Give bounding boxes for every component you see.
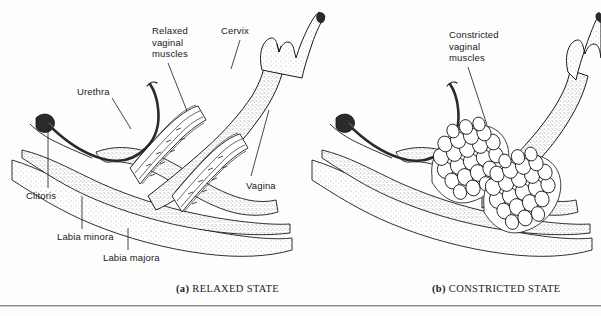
clitoris-shape-a	[36, 114, 54, 132]
leader-cervix	[231, 40, 240, 69]
label-relaxed-vaginal-muscles: Relaxed vaginal muscles	[152, 25, 188, 60]
caption-a-tag: (a)	[176, 283, 189, 294]
caption-constricted-state: (b) CONSTRICTED STATE	[432, 283, 560, 294]
label-cervix: Cervix	[221, 25, 249, 37]
label-constricted-vaginal-muscles: Constricted vaginal muscles	[449, 29, 499, 64]
cervix-shape-a	[261, 12, 326, 78]
cervix-shape-b	[567, 14, 601, 80]
label-labia-minora: Labia minora	[57, 231, 114, 243]
leader-urethra	[112, 98, 131, 129]
label-labia-majora: Labia majora	[103, 252, 160, 264]
figure-divider-shadow	[0, 306, 601, 307]
caption-b-tag: (b)	[432, 283, 446, 294]
caption-b-text: CONSTRICTED STATE	[446, 283, 561, 294]
label-clitoris: Clitoris	[26, 190, 56, 202]
figure-artwork	[0, 0, 601, 316]
anatomical-figure: Urethra Relaxed vaginal muscles Cervix V…	[0, 0, 601, 316]
leader-constricted-muscles	[468, 67, 487, 125]
leader-lines-b	[468, 67, 487, 125]
caption-a-text: RELAXED STATE	[189, 283, 279, 294]
clitoris-shape-b	[336, 114, 354, 132]
label-urethra: Urethra	[77, 86, 110, 98]
label-vagina: Vagina	[246, 180, 276, 192]
caption-relaxed-state: (a) RELAXED STATE	[176, 283, 279, 294]
leader-relaxed-muscles	[168, 63, 187, 111]
